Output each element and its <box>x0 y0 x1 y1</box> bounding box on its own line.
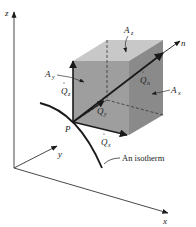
svg-text:A: A <box>170 85 177 95</box>
svg-text:Q: Q <box>140 75 147 85</box>
svg-text:z: z <box>130 30 134 36</box>
normal-direction <box>163 41 180 53</box>
svg-text:A: A <box>44 69 51 79</box>
qz-label: Q z <box>61 82 71 97</box>
x-axis <box>14 168 168 213</box>
svg-text:z: z <box>67 91 71 97</box>
svg-text:n: n <box>147 80 150 86</box>
qx-label: Q x <box>101 133 111 148</box>
svg-text:y: y <box>51 74 55 80</box>
y-axis <box>14 146 57 168</box>
z-axis-label: z <box>4 8 9 18</box>
svg-text:y: y <box>103 111 107 117</box>
svg-text:A: A <box>123 25 130 35</box>
heat-flux-diagram: z x y An isotherm n P Q z Q y Q x <box>0 0 196 227</box>
svg-text:x: x <box>177 90 181 96</box>
isotherm-label: An isotherm <box>122 153 165 163</box>
svg-text:Q: Q <box>101 137 108 147</box>
svg-text:Q: Q <box>61 86 68 96</box>
normal-label: n <box>181 38 186 48</box>
y-axis-label: y <box>57 149 62 159</box>
isotherm-leader <box>104 158 120 164</box>
x-axis-label: x <box>162 216 167 226</box>
svg-text:Q: Q <box>97 106 104 116</box>
point-p-label: P <box>64 124 71 134</box>
svg-text:x: x <box>107 142 111 148</box>
